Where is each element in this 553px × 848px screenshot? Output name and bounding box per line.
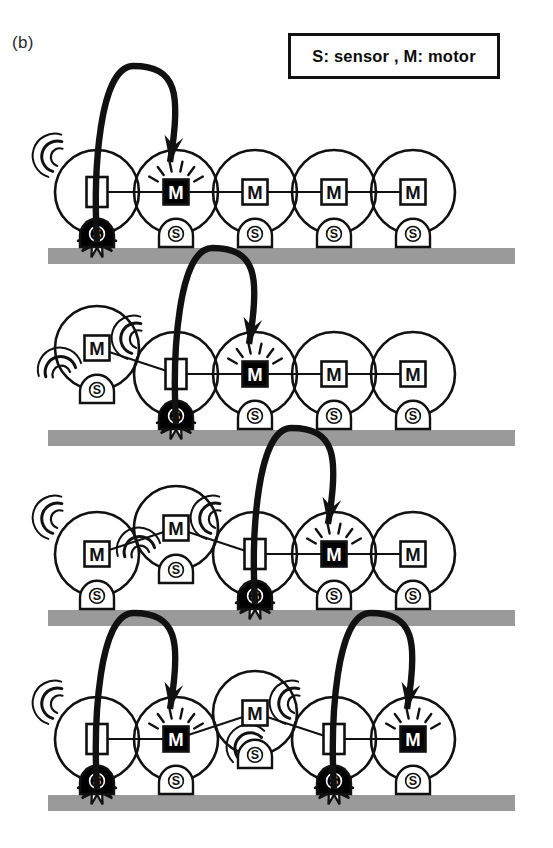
- sparkle-ray: [249, 344, 251, 354]
- sensor-foot[interactable]: S: [80, 375, 114, 403]
- module-box-label: M: [405, 182, 420, 203]
- sequence-row: SMSMSSMS: [25, 613, 515, 811]
- sensor-foot[interactable]: S: [159, 766, 193, 794]
- sensor-foot[interactable]: S: [396, 401, 430, 429]
- signal-arrow-path: [333, 613, 413, 789]
- sensor-foot[interactable]: S: [238, 401, 272, 429]
- robot-module[interactable]: S: [183, 491, 297, 619]
- motor-box-active[interactable]: M: [164, 727, 189, 752]
- sensor-label: S: [409, 227, 417, 241]
- robot-module[interactable]: MS: [213, 332, 297, 429]
- motor-box-active[interactable]: M: [322, 542, 347, 567]
- signal-arrow-path: [96, 613, 176, 789]
- module-box-label: M: [247, 182, 262, 203]
- sensor-label: S: [330, 227, 338, 241]
- motor-box[interactable]: M: [401, 362, 426, 387]
- motor-box-active[interactable]: M: [401, 727, 426, 752]
- vibration-lines: [183, 491, 234, 542]
- module-box-label: M: [405, 544, 420, 565]
- robot-module[interactable]: S: [25, 676, 139, 804]
- sequence-row: MSMSSMSMS: [25, 428, 515, 626]
- robot-module[interactable]: S: [262, 676, 376, 804]
- robot-module[interactable]: MS: [112, 486, 218, 583]
- sensor-foot[interactable]: S: [238, 219, 272, 247]
- sensor-foot[interactable]: S: [80, 581, 114, 609]
- vibration-lines: [104, 311, 155, 362]
- sparkle-ray: [417, 709, 419, 719]
- sparkle-ray: [267, 349, 273, 357]
- motor-box[interactable]: M: [85, 336, 110, 361]
- vibration-lines: [25, 129, 76, 180]
- module-box-label: M: [326, 544, 341, 565]
- motor-box[interactable]: M: [322, 180, 347, 205]
- sparkle-ray: [158, 714, 164, 722]
- motor-box[interactable]: M: [322, 362, 347, 387]
- sparkle-ray: [338, 524, 340, 534]
- module-box-label: M: [405, 729, 420, 750]
- signal-arrow: [254, 428, 341, 604]
- sparkle-ray: [149, 724, 158, 729]
- sensor-foot[interactable]: S: [317, 581, 351, 609]
- motor-box[interactable]: M: [164, 516, 189, 541]
- robot-module[interactable]: MS: [371, 512, 455, 609]
- robot-module[interactable]: MS: [371, 332, 455, 429]
- module-box-label: M: [247, 364, 262, 385]
- sensor-foot[interactable]: S: [396, 581, 430, 609]
- robot-module[interactable]: MS: [371, 697, 455, 794]
- signal-arrow: [96, 613, 183, 789]
- sensor-foot[interactable]: S: [317, 219, 351, 247]
- sensor-label: S: [409, 589, 417, 603]
- signal-arrow-path: [96, 66, 176, 242]
- robot-module[interactable]: MS: [371, 150, 455, 247]
- motor-box[interactable]: M: [401, 180, 426, 205]
- sensor-foot[interactable]: S: [159, 555, 193, 583]
- sensor-label: S: [251, 748, 259, 762]
- sensor-label: S: [172, 563, 180, 577]
- signal-arrow: [96, 66, 183, 242]
- figure-panel-b: (b) S: sensor , M: motor SMSMSMSMSMSSMSM…: [0, 0, 553, 848]
- signal-arrow-path: [175, 248, 255, 424]
- sensor-label: S: [251, 409, 259, 423]
- sparkle-ray: [395, 714, 401, 722]
- robot-module[interactable]: MS: [33, 306, 139, 403]
- sparkle-ray: [407, 709, 409, 719]
- robot-module[interactable]: S: [25, 129, 139, 257]
- vibration-lines: [33, 340, 84, 391]
- robot-module[interactable]: MS: [292, 512, 376, 609]
- sparkle-ray: [273, 359, 282, 364]
- sparkle-ray: [180, 709, 182, 719]
- module-box-label: M: [168, 518, 183, 539]
- module-box-label: M: [247, 703, 262, 724]
- signal-arrow: [333, 613, 420, 789]
- sensor-foot[interactable]: S: [159, 219, 193, 247]
- sensor-label: S: [93, 383, 101, 397]
- sparkle-ray: [228, 359, 237, 364]
- robot-module[interactable]: MS: [213, 150, 297, 247]
- vibration-arc: [36, 138, 72, 174]
- sparkle-ray: [170, 709, 172, 719]
- motor-box[interactable]: M: [243, 701, 268, 726]
- robot-module[interactable]: S: [104, 311, 218, 439]
- ground-bar: [48, 248, 515, 264]
- robot-module[interactable]: MS: [292, 332, 376, 429]
- robot-module[interactable]: MS: [134, 150, 218, 247]
- sensor-label: S: [93, 589, 101, 603]
- motor-box[interactable]: M: [85, 542, 110, 567]
- motor-box[interactable]: M: [243, 180, 268, 205]
- robot-module[interactable]: MS: [134, 697, 218, 794]
- sparkle-ray: [431, 724, 440, 729]
- sparkle-ray: [170, 162, 172, 172]
- sparkle-ray: [180, 162, 182, 172]
- sensor-foot[interactable]: S: [238, 740, 272, 768]
- motor-box-active[interactable]: M: [243, 362, 268, 387]
- robot-module[interactable]: MS: [292, 150, 376, 247]
- sensor-foot[interactable]: S: [317, 401, 351, 429]
- motor-box[interactable]: M: [401, 542, 426, 567]
- motor-box-active[interactable]: M: [164, 180, 189, 205]
- sensor-foot[interactable]: S: [396, 766, 430, 794]
- sensor-foot[interactable]: S: [396, 219, 430, 247]
- robot-module[interactable]: MS: [213, 671, 297, 768]
- signal-arrow: [175, 248, 262, 424]
- sequence-row: SMSMSMSMS: [25, 66, 515, 264]
- robot-module[interactable]: MS: [25, 491, 139, 609]
